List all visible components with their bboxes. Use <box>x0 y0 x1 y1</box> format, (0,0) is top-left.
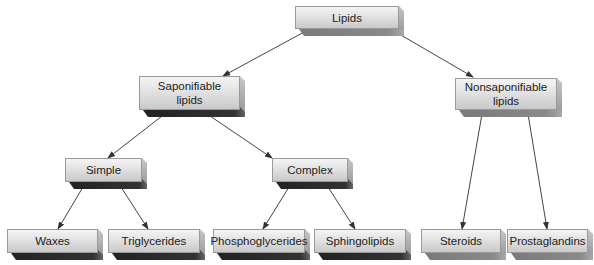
arrow-lipids-to-nonsaponifiable <box>394 31 473 77</box>
arrow-saponifiable-to-simple <box>108 116 162 158</box>
node-triglycerides: Triglycerides <box>108 229 200 253</box>
box-face: Prostaglandins <box>507 229 588 253</box>
box-face: Steroids <box>421 229 501 253</box>
arrow-simple-to-waxes <box>58 187 83 229</box>
node-label: Lipids <box>332 11 362 25</box>
lipid-classification-diagram: Lipids Saponifiable lipids Nonsaponifiab… <box>0 0 594 265</box>
label-line-1: Saponifiable <box>158 80 221 92</box>
node-simple: Simple <box>65 158 142 182</box>
node-label: Prostaglandins <box>509 234 585 248</box>
arrow-nonsaponifiable-to-steroids <box>462 114 482 229</box>
node-steroids: Steroids <box>421 229 501 253</box>
arrow-complex-to-phosphoglycerides <box>263 187 289 229</box>
node-label: Steroids <box>440 234 482 248</box>
box-face: Lipids <box>295 6 399 29</box>
box-face: Saponifiable lipids <box>139 76 240 110</box>
box-face: Waxes <box>7 229 98 253</box>
node-complex: Complex <box>272 158 348 182</box>
node-prostaglandins: Prostaglandins <box>507 229 588 253</box>
box-face: Nonsaponifiable lipids <box>455 78 557 110</box>
box-face: Complex <box>272 158 348 182</box>
box-face: Simple <box>65 158 142 182</box>
arrow-saponifiable-to-complex <box>210 116 272 158</box>
label-line-1: Nonsaponifiable <box>465 81 547 93</box>
box-face: Sphingolipids <box>314 229 406 253</box>
node-nonsaponifiable-lipids: Nonsaponifiable lipids <box>455 78 557 110</box>
node-label: Waxes <box>35 234 70 248</box>
node-label: Triglycerides <box>122 234 187 248</box>
node-waxes: Waxes <box>7 229 98 253</box>
node-label: Complex <box>287 163 332 177</box>
box-face: Phosphoglycerides <box>213 229 305 253</box>
node-label: Sphingolipids <box>326 234 394 248</box>
arrow-lipids-to-saponifiable <box>223 31 306 76</box>
box-face: Triglycerides <box>108 229 200 253</box>
node-sphingolipids: Sphingolipids <box>314 229 406 253</box>
box-side <box>557 78 562 112</box>
arrow-simple-to-triglycerides <box>121 187 148 229</box>
node-lipids: Lipids <box>295 6 399 29</box>
connector-arrows <box>0 0 594 265</box>
node-label: Simple <box>86 163 121 177</box>
arrow-nonsaponifiable-to-prostaglandins <box>528 114 547 229</box>
node-label: Phosphoglycerides <box>210 234 307 248</box>
label-line-2: lipids <box>176 94 202 106</box>
node-phosphoglycerides: Phosphoglycerides <box>213 229 305 253</box>
node-saponifiable-lipids: Saponifiable lipids <box>139 76 240 110</box>
arrow-complex-to-sphingolipids <box>328 187 355 229</box>
node-label: Saponifiable lipids <box>158 79 221 107</box>
node-label: Nonsaponifiable lipids <box>465 80 547 108</box>
label-line-2: lipids <box>493 95 519 107</box>
box-side <box>240 76 245 112</box>
